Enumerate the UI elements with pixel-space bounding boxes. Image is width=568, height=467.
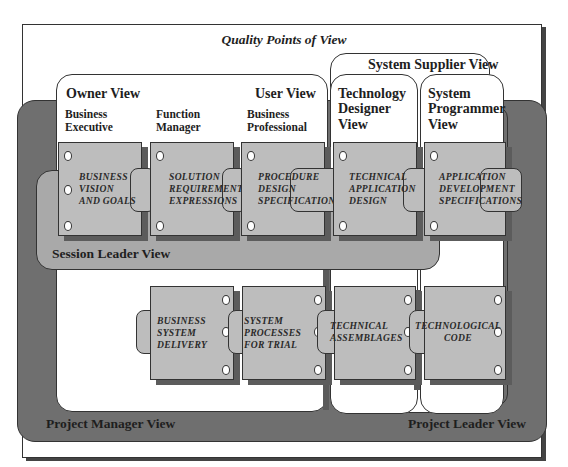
binder-hole-icon [64,221,72,231]
binder-hole-icon [430,221,438,231]
binder-hole-icon [64,185,72,195]
role-line: Manager [156,121,201,134]
diagram-title: Quality Points of View [0,32,568,48]
session-leader-view-label: Session Leader View [52,246,170,262]
role-line: Executive [65,121,113,134]
role-line: Function [156,108,201,121]
system-programmer-view-label: System Programmer View [428,86,505,132]
binder-hole-icon [222,365,230,375]
role-line: Professional [247,121,307,134]
card-line: AND GOALS [79,195,136,207]
card-line: SPECIFICATIONS [439,195,522,207]
card-line: APPLICATION [349,183,416,195]
project-manager-view-label: Project Manager View [46,416,175,432]
card-text: TECHNOLOGICAL CODE [412,320,504,344]
card-line: PROCEDURE [258,171,341,183]
binder-hole-icon [339,151,347,161]
card-text: SYSTEM PROCESSES FOR TRIAL [244,315,301,351]
card-line: SYSTEM [244,315,301,327]
card-line: PROCESSES [244,327,301,339]
card-text: TECHNICAL APPLICATION DESIGN [349,171,416,207]
binder-hole-icon [247,151,255,161]
label-line: System [428,86,505,101]
binder-hole-icon [494,295,502,305]
card-line: DESIGN [258,183,341,195]
label-line: Programmer [428,101,505,116]
card-text: SOLUTION REQUIREMENT EXPRESSIONS [169,171,243,207]
binder-hole-icon [314,295,322,305]
role-line: Business [247,108,307,121]
binder-hole-icon [222,295,230,305]
owner-view-label: Owner View [66,86,140,102]
binder-hole-icon [64,151,72,161]
card-line: BUSINESS [79,171,136,183]
binder-hole-icon [339,221,347,231]
card-line: BUSINESS [157,315,207,327]
card-line: DEVELOPMENT [439,183,522,195]
binder-hole-icon [494,365,502,375]
binder-hole-icon [247,221,255,231]
card-line: VISION [79,183,136,195]
card-line: REQUIREMENT [169,183,243,195]
system-supplier-view-label: System Supplier View [368,57,498,73]
card-text: BUSINESS VISION AND GOALS [79,171,136,207]
card-line: FOR TRIAL [244,339,301,351]
card-line: APPLICATION [439,171,522,183]
binder-hole-icon [156,221,164,231]
binder-hole-icon [314,365,322,375]
binder-hole-icon [430,151,438,161]
card-line: SYSTEM [157,327,207,339]
binder-hole-icon [404,365,412,375]
card-line: DESIGN [349,195,416,207]
binder-hole-icon [156,151,164,161]
card-line: SPECIFICATIONS [258,195,341,207]
label-line: Technology [338,86,406,101]
user-view-label: User View [255,86,316,102]
card-line: TECHNICAL [349,171,416,183]
card-line: ASSEMBLAGES [330,332,403,344]
role-business-executive: Business Executive [65,108,113,134]
card-line: TECHNOLOGICAL [412,320,504,332]
card-text: BUSINESS SYSTEM DELIVERY [157,315,207,351]
project-leader-view-label: Project Leader View [408,416,526,432]
card-line: DELIVERY [157,339,207,351]
card-text: TECHNICAL ASSEMBLAGES [330,320,403,344]
technology-designer-view-label: Technology Designer View [338,86,406,132]
role-function-manager: Function Manager [156,108,201,134]
card-line: SOLUTION [169,171,243,183]
card-text: APPLICATION DEVELOPMENT SPECIFICATIONS [439,171,522,207]
label-line: View [428,117,505,132]
label-line: Designer [338,101,406,116]
card-line: TECHNICAL [330,320,403,332]
role-line: Business [65,108,113,121]
card-text: PROCEDURE DESIGN SPECIFICATIONS [258,171,341,207]
role-business-professional: Business Professional [247,108,307,134]
card-line: EXPRESSIONS [169,195,243,207]
binder-hole-icon [404,295,412,305]
card-line: CODE [412,332,504,344]
label-line: View [338,117,406,132]
